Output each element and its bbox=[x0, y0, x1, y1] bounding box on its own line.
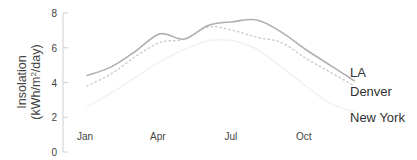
x-axis-labels: JanAprJulOct bbox=[77, 131, 312, 142]
x-tick-label-jul: Jul bbox=[224, 131, 237, 142]
y-axis-title: Insolation (kWh/m2/day) bbox=[15, 44, 43, 119]
insolation-line-chart: Insolation (kWh/m2/day) 02468 JanAprJulO… bbox=[0, 0, 417, 160]
y-tick-label: 2 bbox=[51, 112, 57, 123]
series-lines bbox=[87, 19, 354, 112]
y-axis: 02468 bbox=[51, 8, 68, 158]
series-line-new-york bbox=[87, 40, 354, 112]
y-tick-label: 0 bbox=[51, 147, 57, 158]
direct-legend: LADenverNew York bbox=[350, 65, 405, 125]
x-tick-label-oct: Oct bbox=[296, 131, 312, 142]
series-line-la bbox=[87, 19, 354, 80]
x-tick-label-jan: Jan bbox=[77, 131, 93, 142]
legend-label-denver: Denver bbox=[350, 84, 393, 99]
y-tick-label: 4 bbox=[51, 78, 57, 89]
legend-label-la: LA bbox=[350, 65, 366, 80]
x-tick-label-apr: Apr bbox=[150, 131, 166, 142]
legend-label-new-york: New York bbox=[350, 110, 405, 125]
y-tick-label: 6 bbox=[51, 43, 57, 54]
y-axis-title-line1: Insolation bbox=[15, 55, 29, 109]
y-tick-label: 8 bbox=[51, 8, 57, 19]
y-axis-title-line2: (kWh/m2/day) bbox=[29, 44, 44, 119]
